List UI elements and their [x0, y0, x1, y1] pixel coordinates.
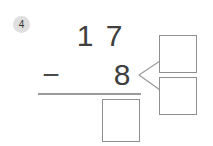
minuend-tens-digit: 1 — [75, 19, 95, 53]
bond-part-bottom-input-box[interactable] — [159, 77, 197, 115]
answer-input-box[interactable] — [102, 99, 140, 142]
equals-line — [38, 93, 141, 95]
minuend-ones-digit: 7 — [104, 19, 124, 53]
worksheet-problem: 4 1 7 − 8 — [0, 0, 213, 146]
subtrahend-ones-digit: 8 — [112, 58, 132, 92]
minus-sign: − — [41, 58, 61, 92]
problem-number-badge: 4 — [13, 16, 30, 33]
bond-part-top-input-box[interactable] — [159, 35, 197, 73]
